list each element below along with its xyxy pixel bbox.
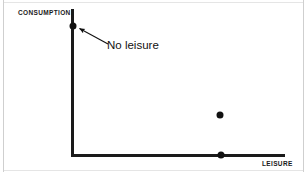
page-edge-left	[3, 0, 4, 172]
y-axis-consumption	[71, 9, 74, 157]
data-point-no-leisure	[70, 23, 77, 30]
x-axis-title: LEISURE	[262, 160, 293, 167]
no-leisure-arrow-icon	[0, 0, 307, 172]
annotation-no-leisure-label: No leisure	[107, 39, 159, 51]
x-axis-leisure	[71, 154, 285, 157]
page-edge-bottom	[3, 170, 304, 171]
page-edge-top	[3, 2, 304, 3]
page-edge-right	[303, 0, 304, 172]
economics-leisure-consumption-figure: CONSUMPTION LEISURE No leisure	[0, 0, 307, 172]
y-axis-title: CONSUMPTION	[18, 9, 71, 16]
data-point-interior	[217, 112, 224, 119]
data-point-on-leisure-axis	[218, 152, 225, 159]
